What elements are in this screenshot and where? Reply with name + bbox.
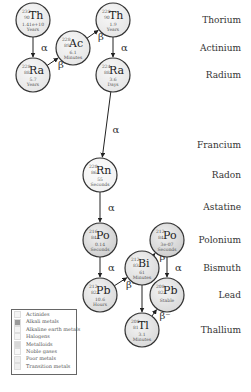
legend-item: Alkali metals: [14, 318, 76, 325]
legend-swatch: [14, 333, 21, 340]
element-category-legend: ActinidesAlkali metalsAlkaline earth met…: [11, 309, 77, 375]
legend-label: Noble gases: [26, 348, 57, 355]
legend-label: Halogens: [26, 333, 50, 340]
half-life-unit: Seconds: [90, 182, 110, 187]
half-life-unit: Years: [26, 27, 40, 32]
decay-mode-label: α: [108, 202, 115, 213]
half-life-unit: Stable: [160, 298, 175, 303]
legend-swatch: [14, 348, 21, 355]
half-life-unit: Minutes: [64, 55, 83, 60]
half-life-unit: Seconds: [90, 247, 110, 252]
nuclide-pb208: 20882PbStable: [150, 278, 184, 312]
row-label-francium: Francium: [197, 140, 241, 150]
legend-label: Alkali metals: [26, 318, 59, 325]
row-label-actinium: Actinium: [200, 43, 241, 53]
nuclide-ra228: 22888Ra5.7Years: [16, 58, 50, 92]
legend-label: Transition metals: [26, 363, 70, 370]
decay-arrow-rn220-po216: α: [100, 192, 115, 222]
legend-item: Poor metals: [14, 355, 76, 362]
decay-arrow-th232-ra228: α: [33, 37, 48, 57]
nuclide-po212: 21284Po3e-07Seconds: [150, 223, 184, 257]
legend-label: Actinides: [26, 311, 50, 318]
element-symbol: Bi: [138, 257, 150, 270]
row-label-radium: Radium: [206, 70, 241, 80]
nuclide-rn220: 22086Rn55Seconds: [83, 158, 117, 192]
decay-arrow-ra224-rn220: α: [102, 92, 119, 157]
legend-item: Alkaline earth metals: [14, 326, 76, 333]
nuclide-tl208: 20881Tl3.1Minutes: [125, 313, 159, 347]
half-life-unit: Seconds: [157, 247, 177, 252]
row-label-astatine: Astatine: [203, 202, 241, 212]
legend-item: Noble gases: [14, 348, 76, 355]
legend-item: Actinides: [14, 311, 76, 318]
element-symbol: Pb: [163, 284, 177, 297]
element-symbol: Ra: [109, 64, 125, 77]
decay-arrow-po216-pb212: α: [100, 257, 115, 277]
nuclide-ac228: 22889Ac6.1Minutes: [56, 31, 90, 65]
half-life-unit: Minutes: [133, 337, 152, 342]
decay-arrow-th228-ra224: α: [113, 37, 128, 57]
legend-item: Metalloids: [14, 341, 76, 348]
element-symbol: Po: [96, 229, 110, 242]
row-label-bismuth: Bismuth: [203, 263, 241, 273]
half-life-unit: Hours: [93, 302, 108, 307]
row-label-polonium: Polonium: [199, 235, 241, 245]
row-label-thallium: Thallium: [201, 325, 241, 335]
nuclide-bi212: 21283Bi61Minutes: [125, 251, 159, 285]
row-label-radon: Radon: [212, 170, 241, 180]
element-symbol: Rn: [96, 164, 111, 177]
nuclide-po216: 21684Po0.14Seconds: [83, 223, 117, 257]
legend-swatch: [14, 341, 21, 348]
decay-mode-label: α: [175, 262, 182, 273]
element-symbol: Ac: [68, 37, 83, 50]
element-symbol: Ra: [29, 64, 45, 77]
element-symbol: Tl: [138, 319, 149, 332]
row-label-thorium: Thorium: [202, 15, 241, 25]
nuclide-th232: 23290Th1.41e+10Years: [16, 3, 50, 37]
nuclide-ra224: 22488Ra3.6Days: [96, 58, 130, 92]
legend-label: Metalloids: [26, 341, 53, 348]
half-life-unit: Days: [107, 82, 119, 87]
element-symbol: Th: [29, 9, 43, 22]
row-label-lead: Lead: [219, 290, 241, 300]
half-life-unit: Minutes: [133, 275, 152, 280]
nuclide-th228: 22890Th1.9Years: [96, 3, 130, 37]
legend-swatch: [14, 319, 21, 326]
legend-swatch: [14, 326, 21, 333]
legend-item: Transition metals: [14, 363, 76, 370]
half-life-unit: Years: [106, 27, 120, 32]
legend-swatch: [14, 311, 21, 318]
element-symbol: Po: [163, 229, 177, 242]
nuclide-nodes: 23290Th1.41e+10Years22888Ra5.7Years22889…: [16, 3, 184, 347]
legend-label: Alkaline earth metals: [26, 326, 80, 333]
legend-swatch: [14, 356, 21, 363]
decay-mode-label: α: [41, 42, 48, 53]
legend-swatch: [14, 363, 21, 370]
element-symbol: Pb: [96, 284, 110, 297]
decay-mode-label: α: [121, 42, 128, 53]
half-life-unit: Years: [26, 82, 40, 87]
legend-label: Poor metals: [26, 355, 56, 362]
element-symbol: Th: [109, 9, 123, 22]
decay-mode-label: α: [113, 124, 120, 135]
nuclide-pb212: 21282Pb10.6Hours: [83, 278, 117, 312]
decay-mode-label: α: [108, 262, 115, 273]
legend-item: Halogens: [14, 333, 76, 340]
